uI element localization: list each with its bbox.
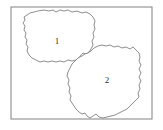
region-1-label: 1 [55,36,60,46]
figure-container: 1 2 [0,0,163,130]
regions-diagram: 1 2 [0,0,163,130]
region-2-label: 2 [105,75,110,85]
